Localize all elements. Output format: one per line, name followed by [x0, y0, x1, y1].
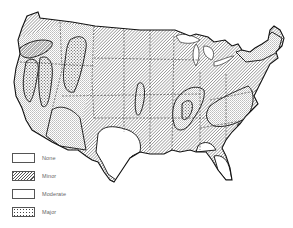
legend-label: None — [42, 155, 56, 161]
swatch-major — [12, 207, 35, 217]
swatch-minor — [12, 171, 35, 181]
legend-label: Moderate — [42, 191, 66, 197]
legend-label: Minor — [42, 173, 56, 179]
legend-item-minor: Minor — [12, 168, 66, 184]
legend-label: Major — [42, 209, 56, 215]
swatch-moderate — [12, 189, 35, 199]
legend-item-major: Major — [12, 204, 66, 220]
legend: None Minor Moderate Major — [12, 150, 66, 222]
legend-item-none: None — [12, 150, 66, 166]
swatch-none — [12, 153, 35, 163]
legend-item-moderate: Moderate — [12, 186, 66, 202]
